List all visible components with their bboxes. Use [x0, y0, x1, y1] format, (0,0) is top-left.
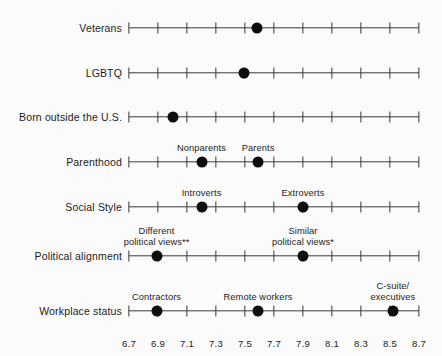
axis-tick	[128, 251, 129, 262]
axis-tick	[418, 23, 419, 34]
dot-plot-chart: VeteransLGBTQBorn outside the U.S.Parent…	[0, 0, 442, 356]
data-point-dot[interactable]	[196, 202, 207, 213]
axis-tick	[418, 112, 419, 123]
axis-tick	[331, 202, 332, 213]
axis-tick	[244, 23, 245, 34]
axis-tick	[128, 23, 129, 34]
axis-tick	[128, 68, 129, 79]
axis-tick	[360, 112, 361, 123]
axis-tick	[273, 23, 274, 34]
axis-tick	[389, 112, 390, 123]
data-point-label: C-suite/executives	[370, 281, 415, 302]
axis-tick	[186, 157, 187, 168]
x-axis-tick-label: 7.9	[296, 338, 310, 349]
axis-tick	[273, 112, 274, 123]
axis-tick	[157, 112, 158, 123]
row-label: Workplace status	[39, 305, 122, 317]
x-axis-tick-label: 8.7	[412, 338, 426, 349]
data-point-dot[interactable]	[251, 23, 262, 34]
axis-tick	[186, 306, 187, 317]
axis-tick	[244, 251, 245, 262]
data-point-dot[interactable]	[253, 306, 264, 317]
axis-tick	[302, 112, 303, 123]
data-point-label: Nonparents	[177, 143, 226, 154]
x-axis-tick-label: 7.3	[209, 338, 223, 349]
axis-tick	[331, 251, 332, 262]
data-point-label: Parents	[242, 143, 275, 154]
row-label: Veterans	[79, 22, 122, 34]
axis-tick	[331, 23, 332, 34]
data-point-label: Extroverts	[282, 188, 325, 199]
axis-tick	[157, 68, 158, 79]
axis-tick	[360, 306, 361, 317]
axis-tick	[360, 23, 361, 34]
axis-tick	[215, 306, 216, 317]
x-axis-tick-label: 6.7	[122, 338, 136, 349]
data-point-dot[interactable]	[151, 306, 162, 317]
row-label: Political alignment	[35, 250, 122, 262]
x-axis-tick-label: 8.1	[325, 338, 339, 349]
row-label-column: VeteransLGBTQBorn outside the U.S.Parent…	[0, 0, 122, 356]
data-point-dot[interactable]	[298, 251, 309, 262]
axis-tick	[302, 23, 303, 34]
axis-tick	[157, 157, 158, 168]
axis-tick	[389, 251, 390, 262]
axis-tick	[186, 112, 187, 123]
data-point-dot[interactable]	[387, 306, 398, 317]
axis-tick	[360, 251, 361, 262]
axis-tick	[302, 157, 303, 168]
data-point-label: Remote workers	[224, 292, 293, 303]
data-point-label: Contractors	[132, 292, 181, 303]
data-point-dot[interactable]	[298, 202, 309, 213]
axis-tick	[157, 202, 158, 213]
x-axis-tick-label: 7.1	[180, 338, 194, 349]
data-point-label: Similarpolitical views*	[272, 226, 334, 247]
data-point-dot[interactable]	[167, 112, 178, 123]
axis-tick	[418, 251, 419, 262]
row-label: Born outside the U.S.	[19, 111, 122, 123]
axis-tick	[273, 306, 274, 317]
axis-tick	[128, 306, 129, 317]
axis-tick	[215, 23, 216, 34]
axis-tick	[331, 306, 332, 317]
axis-tick	[331, 68, 332, 79]
axis-tick	[244, 202, 245, 213]
axis-tick	[244, 157, 245, 168]
axis-tick	[418, 157, 419, 168]
axis-tick	[186, 251, 187, 262]
axis-tick	[128, 157, 129, 168]
axis-tick	[360, 202, 361, 213]
axis-tick	[186, 68, 187, 79]
x-axis-tick-label: 7.7	[267, 338, 281, 349]
axis-tick	[186, 23, 187, 34]
axis-tick	[302, 68, 303, 79]
axis-tick	[360, 68, 361, 79]
axis-tick	[360, 157, 361, 168]
axis-tick	[244, 306, 245, 317]
data-point-label: Introverts	[182, 188, 222, 199]
axis-tick	[128, 202, 129, 213]
axis-tick	[302, 306, 303, 317]
data-point-dot[interactable]	[238, 68, 249, 79]
data-point-dot[interactable]	[196, 157, 207, 168]
axis-tick	[418, 202, 419, 213]
row-label: Parenthood	[66, 156, 122, 168]
data-point-dot[interactable]	[151, 251, 162, 262]
x-axis-tick-label: 7.5	[238, 338, 252, 349]
axis-tick	[215, 112, 216, 123]
axis-tick	[215, 202, 216, 213]
x-axis-tick-label: 8.3	[354, 338, 368, 349]
axis-tick	[273, 251, 274, 262]
axis-tick	[389, 68, 390, 79]
axis-tick	[331, 157, 332, 168]
axis-tick	[157, 23, 158, 34]
axis-tick	[389, 157, 390, 168]
axis-tick	[331, 112, 332, 123]
axis-tick	[273, 202, 274, 213]
data-point-label: Differentpolitical views**	[124, 226, 190, 247]
axis-tick	[244, 112, 245, 123]
axis-tick	[389, 23, 390, 34]
axis-tick	[128, 112, 129, 123]
axis-tick	[273, 157, 274, 168]
data-point-dot[interactable]	[253, 157, 264, 168]
